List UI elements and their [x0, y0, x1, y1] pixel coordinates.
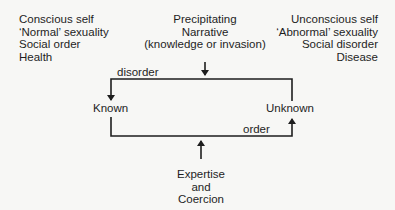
known-node: Known	[93, 102, 128, 114]
unknown-node: Unknown	[266, 102, 314, 114]
disorder-label: disorder	[117, 66, 159, 78]
order-label: order	[243, 123, 270, 135]
disorder-edge	[111, 79, 292, 101]
cycle-diagram	[0, 0, 395, 210]
